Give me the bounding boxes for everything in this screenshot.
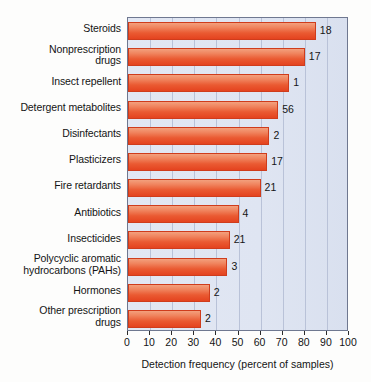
x-tick-mark-10	[149, 331, 150, 335]
bar[interactable]	[128, 48, 305, 66]
category-label-line: Hormones	[1, 285, 121, 297]
bar-row: 1	[128, 74, 349, 92]
category-label: Steroids	[1, 23, 121, 35]
category-label: Polycyclic aromatichydrocarbons (PAHs)	[1, 253, 121, 276]
bar-value-label: 18	[320, 24, 332, 37]
bar-chart-figure: SteroidsNonprescriptiondrugsInsect repel…	[0, 0, 371, 382]
bar[interactable]	[128, 231, 230, 249]
category-label-line: drugs	[1, 55, 121, 67]
bar[interactable]	[128, 284, 210, 302]
bar-value-label: 2	[273, 129, 279, 142]
category-label: Antibiotics	[1, 207, 121, 219]
plot-area: 181715621721421322	[127, 17, 348, 331]
x-tick-mark-50	[238, 331, 239, 335]
x-tick-label: 60	[254, 336, 266, 348]
category-label: Insecticides	[1, 233, 121, 245]
bar-row: 2	[128, 127, 349, 145]
bar-value-label: 56	[282, 103, 294, 116]
bar[interactable]	[128, 258, 227, 276]
x-tick-label: 80	[298, 336, 310, 348]
x-tick-mark-90	[326, 331, 327, 335]
bar-row: 18	[128, 22, 349, 40]
x-tick-label: 40	[210, 336, 222, 348]
x-tick-mark-100	[348, 331, 349, 335]
category-label-line: Insect repellent	[1, 76, 121, 88]
bar[interactable]	[128, 74, 289, 92]
bar-value-label: 3	[231, 260, 237, 273]
bars-layer: 181715621721421322	[128, 18, 347, 330]
bar-value-label: 17	[271, 155, 283, 168]
category-axis: SteroidsNonprescriptiondrugsInsect repel…	[0, 17, 124, 331]
category-label-line: Plasticizers	[1, 154, 121, 166]
x-axis-title: Detection frequency (percent of samples)	[127, 358, 348, 371]
bar-row: 2	[128, 310, 349, 328]
category-label-line: Steroids	[1, 23, 121, 35]
category-label-line: Insecticides	[1, 233, 121, 245]
category-label: Fire retardants	[1, 180, 121, 192]
bar[interactable]	[128, 310, 201, 328]
x-tick-label: 30	[187, 336, 199, 348]
bar-row: 2	[128, 284, 349, 302]
category-label-line: Fire retardants	[1, 180, 121, 192]
x-tick-label: 90	[320, 336, 332, 348]
bar-value-label: 21	[234, 233, 246, 246]
bar[interactable]	[128, 205, 239, 223]
bar-row: 56	[128, 101, 349, 119]
category-label: Disinfectants	[1, 128, 121, 140]
bar-value-label: 17	[309, 50, 321, 63]
category-label-line: drugs	[1, 317, 121, 329]
category-label: Insect repellent	[1, 76, 121, 88]
category-label: Plasticizers	[1, 154, 121, 166]
category-label-line: Polycyclic aromatic	[1, 253, 121, 265]
category-label: Other prescriptiondrugs	[1, 305, 121, 328]
bar-row: 21	[128, 179, 349, 197]
bar-value-label: 4	[243, 207, 249, 220]
x-tick-mark-60	[260, 331, 261, 335]
bar-value-label: 21	[265, 181, 277, 194]
bar-value-label: 2	[214, 286, 220, 299]
category-label: Nonprescriptiondrugs	[1, 44, 121, 67]
bar[interactable]	[128, 179, 261, 197]
x-tick-label: 20	[165, 336, 177, 348]
category-label: Hormones	[1, 285, 121, 297]
x-axis: 0102030405060708090100	[127, 331, 348, 351]
bar[interactable]	[128, 153, 267, 171]
bar-row: 4	[128, 205, 349, 223]
bar[interactable]	[128, 22, 316, 40]
bar-value-label: 2	[205, 312, 211, 325]
x-tick-label: 50	[232, 336, 244, 348]
x-tick-label: 70	[276, 336, 288, 348]
x-tick-mark-30	[193, 331, 194, 335]
category-label: Detergent metabolites	[1, 102, 121, 114]
x-tick-label: 10	[143, 336, 155, 348]
x-tick-mark-40	[215, 331, 216, 335]
bar-row: 3	[128, 258, 349, 276]
x-tick-mark-70	[282, 331, 283, 335]
bar-value-label: 1	[293, 76, 299, 89]
x-tick-label: 0	[124, 336, 130, 348]
bar-row: 17	[128, 153, 349, 171]
x-tick-label: 100	[339, 336, 357, 348]
x-tick-mark-0	[127, 331, 128, 335]
category-label-line: Disinfectants	[1, 128, 121, 140]
bar[interactable]	[128, 127, 269, 145]
bar[interactable]	[128, 101, 278, 119]
category-label-line: Detergent metabolites	[1, 102, 121, 114]
x-tick-mark-20	[171, 331, 172, 335]
x-tick-mark-80	[304, 331, 305, 335]
category-label-line: Antibiotics	[1, 207, 121, 219]
bar-row: 17	[128, 48, 349, 66]
category-label-line: hydrocarbons (PAHs)	[1, 265, 121, 277]
bar-row: 21	[128, 231, 349, 249]
